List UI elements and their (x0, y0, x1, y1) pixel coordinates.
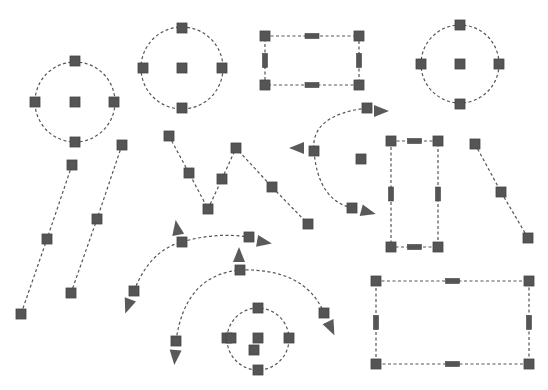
corner-handle[interactable] (371, 359, 381, 369)
edge-handle-bottom[interactable] (408, 245, 422, 250)
circle-handle[interactable] (284, 333, 294, 343)
vertex-handle[interactable] (217, 174, 227, 184)
circle-handle[interactable] (70, 137, 80, 147)
circle-handle[interactable] (30, 97, 40, 107)
arrow-handle-icon[interactable] (360, 204, 378, 219)
arc-handle[interactable] (171, 336, 181, 346)
vertex-handle[interactable] (184, 168, 194, 178)
circle-handle[interactable] (70, 97, 80, 107)
vertex-handle[interactable] (203, 204, 213, 214)
circle-handle[interactable] (70, 56, 80, 66)
corner-handle[interactable] (260, 31, 270, 41)
circle-handle[interactable] (217, 63, 227, 73)
edge-handle-right[interactable] (357, 54, 362, 68)
vertex-handle[interactable] (231, 143, 241, 153)
circle-handle[interactable] (177, 23, 187, 33)
vertex-handle[interactable] (42, 234, 52, 244)
corner-handle[interactable] (386, 242, 396, 252)
edge-handle-bottom[interactable] (446, 362, 460, 367)
circle-handle[interactable] (138, 63, 148, 73)
edge-handle-left[interactable] (263, 54, 268, 68)
circle-handle[interactable] (253, 333, 263, 343)
corner-handle[interactable] (371, 276, 381, 286)
vertex-handle[interactable] (66, 288, 76, 298)
corner-handle[interactable] (386, 136, 396, 146)
arc-handle[interactable] (177, 237, 187, 247)
arc-handle[interactable] (244, 232, 254, 242)
circle-handle[interactable] (455, 99, 465, 109)
arrow-handle-icon[interactable] (323, 319, 340, 338)
arc-handle[interactable] (129, 286, 139, 296)
arc-handle[interactable] (347, 203, 357, 213)
vertex-handle[interactable] (92, 214, 102, 224)
vertex-handle[interactable] (16, 309, 26, 319)
edge-handle-bottom[interactable] (305, 83, 319, 88)
arc-bottom-middle[interactable] (176, 270, 324, 341)
vertex-handle[interactable] (67, 160, 77, 170)
corner-handle[interactable] (524, 276, 534, 286)
edge-handle-top[interactable] (305, 34, 319, 39)
arrow-handle-icon[interactable] (233, 247, 245, 262)
vertex-handle[interactable] (164, 131, 174, 141)
paths-layer (21, 25, 529, 370)
corner-handle[interactable] (260, 80, 270, 90)
corner-handle[interactable] (354, 80, 364, 90)
vertex-handle[interactable] (523, 233, 533, 243)
vertex-handle[interactable] (303, 219, 313, 229)
arc-handle[interactable] (235, 265, 245, 275)
diagram-canvas (0, 0, 548, 390)
circle-handle[interactable] (455, 20, 465, 30)
rect-bottom-right[interactable] (376, 281, 529, 364)
arc-handle[interactable] (309, 146, 319, 156)
arrow-handle-icon[interactable] (256, 235, 273, 249)
vertex-handle[interactable] (117, 140, 127, 150)
vertex-handle[interactable] (496, 187, 506, 197)
arc-handle[interactable] (319, 308, 329, 318)
circle-handle[interactable] (109, 97, 119, 107)
circle-handle[interactable] (455, 59, 465, 69)
arrow-handle-icon[interactable] (289, 142, 304, 154)
edge-handle-top[interactable] (408, 139, 422, 144)
circle-handle[interactable] (253, 365, 263, 375)
arc-handle[interactable] (356, 154, 366, 164)
corner-handle[interactable] (433, 242, 443, 252)
circle-handle[interactable] (416, 59, 426, 69)
edge-handle-right[interactable] (436, 187, 441, 201)
vertex-handle[interactable] (267, 182, 277, 192)
arc-bottom-left[interactable] (134, 235, 249, 291)
arrow-handle-icon[interactable] (168, 350, 181, 366)
edge-handle-top[interactable] (446, 279, 460, 284)
arc-handle[interactable] (362, 103, 372, 113)
corner-handle[interactable] (354, 31, 364, 41)
circle-handle[interactable] (249, 345, 259, 355)
rect-vertical[interactable] (391, 141, 438, 247)
circle-handle[interactable] (177, 103, 187, 113)
arrow-handle-icon[interactable] (374, 105, 389, 117)
arrow-handle-icon[interactable] (170, 219, 184, 236)
circle-handle[interactable] (253, 303, 263, 313)
rect-top[interactable] (265, 36, 359, 85)
edge-handle-left[interactable] (389, 187, 394, 201)
handles-layer (16, 20, 534, 375)
corner-handle[interactable] (524, 359, 534, 369)
edge-handle-right[interactable] (527, 316, 532, 330)
edge-handle-left[interactable] (374, 316, 379, 330)
corner-handle[interactable] (433, 136, 443, 146)
arrow-handle-icon[interactable] (120, 297, 136, 315)
circle-handle[interactable] (494, 59, 504, 69)
circle-handle[interactable] (177, 63, 187, 73)
circle-handle[interactable] (226, 333, 236, 343)
vertex-handle[interactable] (470, 139, 480, 149)
